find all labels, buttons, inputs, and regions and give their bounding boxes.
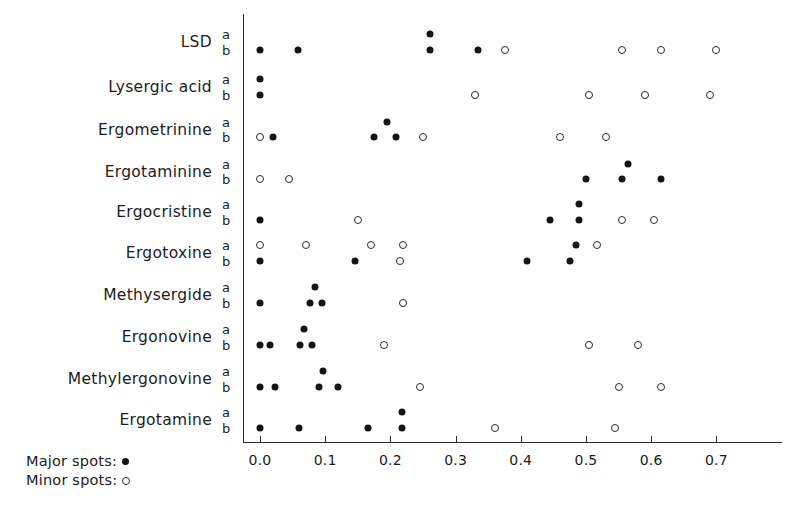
minor-spot [556,133,564,141]
compound-label: Ergocristine [116,203,212,221]
minor-spot [501,46,509,54]
minor-spot [380,341,388,349]
compound-label-text: Ergotaminine [105,163,212,181]
minor-spot [615,383,623,391]
ab-subrow-tag-b: b [222,255,230,268]
minor-spot [657,383,665,391]
legend-row-major: Major spots: [26,452,130,471]
major-spot [297,342,304,349]
minor-spot [712,46,720,54]
major-spot [257,47,264,54]
major-spot [573,242,580,249]
x-tick-label: 0.4 [509,452,532,468]
major-spot [426,47,433,54]
major-spot [318,300,325,307]
minor-spot [302,241,310,249]
ab-subrow-tag-b: b [222,214,230,227]
minor-spot [285,175,293,183]
x-tick-mark [325,436,326,443]
major-spot [257,300,264,307]
minor-spot [256,175,264,183]
major-spot [307,300,314,307]
ab-subrow-tag-b: b [222,89,230,102]
ab-subrow-tag-a: a [222,158,230,171]
compound-label-text: LSD [181,33,212,51]
compound-label-text: Ergocristine [116,203,212,221]
ab-subrow-tag-b: b [222,131,230,144]
x-tick-label: 0.5 [575,452,598,468]
major-spot [257,92,264,99]
major-spot [583,176,590,183]
compound-label: Ergotoxine [126,244,212,262]
compound-label: Ergometrinine [98,121,212,139]
spot-chart-figure: LSDLysergic acidErgometrinineErgotaminin… [0,0,794,514]
major-spot [309,342,316,349]
compound-label-text: Lysergic acid [108,78,212,96]
y-axis-line [243,14,244,442]
major-spot [257,384,264,391]
major-spot [618,176,625,183]
major-spot [657,176,664,183]
ab-subrow-tag-b: b [222,339,230,352]
minor-spot [256,133,264,141]
compound-label-text: Methysergide [103,286,212,304]
major-spot [392,134,399,141]
ab-subrow-tag-a: a [222,406,230,419]
x-tick-label: 0.3 [444,452,467,468]
x-tick-mark [651,436,652,443]
x-axis-line [243,442,782,443]
minor-spot [396,257,404,265]
compound-label-column: LSDLysergic acidErgometrinineErgotaminin… [20,0,212,514]
ab-subrow-tag-b: b [222,297,230,310]
major-spot [625,161,632,168]
minor-spot [416,383,424,391]
major-spot [266,342,273,349]
compound-label-text: Ergonovine [122,328,212,346]
major-spot [364,425,371,432]
major-spot [294,47,301,54]
compound-label-text: Ergotamine [119,411,212,429]
ab-subrow-tag-a: a [222,28,230,41]
ab-subrow-tag-b: b [222,173,230,186]
major-spot [384,119,391,126]
minor-spot [650,216,658,224]
minor-spot [618,216,626,224]
major-spot [257,425,264,432]
compound-label: Ergonovine [122,328,212,346]
compound-label-text: Ergometrinine [98,121,212,139]
x-tick-mark [586,436,587,443]
legend-major-label: Major spots: [26,452,117,471]
minor-spot [585,91,593,99]
major-spot [547,217,554,224]
x-tick-label: 0.6 [640,452,663,468]
compound-label-text: Methylergonovine [68,370,212,388]
compound-label: Ergotamine [119,411,212,429]
x-tick-label: 0.7 [705,452,728,468]
ab-subrow-tag-a: a [222,73,230,86]
major-spot [399,425,406,432]
ab-subrow-tag-a: a [222,116,230,129]
minor-spot [471,91,479,99]
compound-label: Methylergonovine [68,370,212,388]
major-spot [351,258,358,265]
minor-spot [585,341,593,349]
major-spot [576,201,583,208]
minor-spot [419,133,427,141]
major-spot [257,217,264,224]
ab-subrow-tag-b: b [222,422,230,435]
minor-spot [657,46,665,54]
x-tick-label: 0.1 [314,452,337,468]
major-spot [524,258,531,265]
major-spot [296,425,303,432]
legend-minor-label: Minor spots: [26,471,117,490]
x-tick-mark [390,436,391,443]
minor-spot [634,341,642,349]
compound-label: Methysergide [103,286,212,304]
compound-label-text: Ergotoxine [126,244,212,262]
minor-spot [611,424,619,432]
compound-label: LSD [181,33,212,51]
minor-spot [641,91,649,99]
minor-spot [399,299,407,307]
major-spot [271,384,278,391]
ab-subrow-tag-a: a [222,281,230,294]
